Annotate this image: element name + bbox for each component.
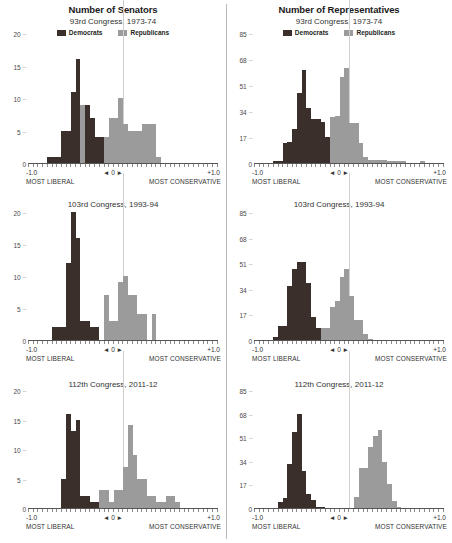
bar-series-container: [28, 390, 218, 508]
y-axis-tick-label: 0: [248, 338, 252, 345]
panel-senate-112th: 112th Congress, 2011-12 05 ···10 ···15 ·…: [0, 375, 226, 543]
histogram-plot: [28, 213, 218, 341]
y-axis-tick-label: 10 ···: [13, 274, 26, 281]
y-axis-tick-label: 20 ···: [13, 210, 26, 217]
y-axis-labels: 017 ···34 ···51 ···68 ···85 ···: [226, 34, 252, 164]
panel-senate-93rd: Number of Senators 93rd Congress, 1973-7…: [0, 0, 226, 195]
y-axis-tick-label: 15 ···: [13, 242, 26, 249]
y-axis-tick-label: 5 ···: [17, 476, 26, 483]
histogram-plot: [254, 213, 444, 341]
y-axis-labels: 017 ···34 ···51 ···68 ···85 ···: [226, 213, 252, 341]
plot-area: 05 ···10 ···15 ···20 ···-1.0+1.0◄ 0 ►MOS…: [0, 34, 226, 194]
x-axis-caption-left: MOST LIBERAL: [252, 355, 300, 362]
x-axis-label-left: -1.0: [26, 346, 37, 353]
bar-series-container: [254, 390, 444, 508]
x-axis-label-right: +1.0: [433, 514, 446, 521]
y-axis-tick-label: 51 ···: [239, 83, 252, 90]
histogram-bar: [95, 327, 100, 340]
histogram-plot: [28, 391, 218, 509]
chart-subtitle: 103rd Congress, 1993-94: [0, 195, 226, 209]
x-axis-caption-left: MOST LIBERAL: [26, 355, 74, 362]
y-axis-tick-label: 34 ···: [239, 458, 252, 465]
x-axis-zero-marker: ◄ 0 ►: [103, 169, 123, 176]
plot-area: 017 ···34 ···51 ···68 ···85 ···-1.0+1.0◄…: [226, 34, 452, 194]
panel-house-93rd: Number of Representatives 93rd Congress,…: [226, 0, 452, 195]
x-axis-zero-marker: ◄ 0 ►: [103, 514, 123, 521]
y-axis-tick-label: 34 ···: [239, 286, 252, 293]
x-axis-tick: [212, 341, 218, 344]
y-axis-tick-label: 85 ···: [239, 388, 252, 395]
histogram-bar: [76, 420, 81, 509]
x-axis-label-right: +1.0: [207, 514, 220, 521]
x-axis-caption-left: MOST LIBERAL: [26, 178, 74, 185]
plot-area: 017 ···34 ···51 ···68 ···85 ···-1.0+1.0◄…: [226, 213, 452, 371]
y-axis-tick-label: 15 ···: [13, 417, 26, 424]
y-axis-tick-label: 17 ···: [239, 312, 252, 319]
x-axis-ticks: [28, 509, 218, 513]
plot-area: 017 ···34 ···51 ···68 ···85 ···-1.0+1.0◄…: [226, 391, 452, 539]
x-axis-label-left: -1.0: [26, 514, 37, 521]
x-axis-label-right: +1.0: [433, 169, 446, 176]
x-axis-caption-right: MOST CONSERVATIVE: [149, 178, 221, 185]
plot-area: 05 ···10 ···15 ···20 ···-1.0+1.0◄ 0 ►MOS…: [0, 391, 226, 539]
y-axis-tick-label: 5 ···: [17, 306, 26, 313]
x-axis-label-left: -1.0: [252, 514, 263, 521]
y-axis-tick-label: 17 ···: [239, 135, 252, 142]
histogram-bar: [152, 314, 157, 340]
y-axis-labels: 05 ···10 ···15 ···20 ···: [0, 34, 26, 164]
y-axis-tick-label: 0: [22, 506, 26, 513]
x-axis-tick: [212, 509, 218, 512]
x-axis-tick: [438, 341, 444, 344]
x-axis-caption-right: MOST CONSERVATIVE: [149, 523, 221, 530]
x-axis-label-left: -1.0: [252, 169, 263, 176]
x-axis-zero-marker: ◄ 0 ►: [103, 346, 123, 353]
histogram-plot: [254, 34, 444, 164]
x-axis-zero-marker: ◄ 0 ►: [329, 514, 349, 521]
x-axis-zero-marker: ◄ 0 ►: [329, 346, 349, 353]
x-axis-ticks: [254, 164, 444, 168]
bar-series-container: [254, 33, 444, 163]
chart-title-senate: Number of Senators: [0, 0, 226, 15]
y-axis-tick-label: 5 ···: [17, 128, 26, 135]
histogram-plot: [28, 34, 218, 164]
x-axis-label-right: +1.0: [207, 346, 220, 353]
y-axis-tick-label: 68 ···: [239, 235, 252, 242]
y-axis-tick-label: 34 ···: [239, 109, 252, 116]
y-axis-tick-label: 20 ···: [13, 31, 26, 38]
y-axis-tick-label: 20 ···: [13, 388, 26, 395]
y-axis-tick-label: 68 ···: [239, 411, 252, 418]
x-axis-ticks: [28, 164, 218, 168]
bar-series-container: [28, 212, 218, 340]
x-axis-tick: [438, 164, 444, 167]
x-axis-caption-right: MOST CONSERVATIVE: [375, 178, 447, 185]
bar-series-container: [28, 33, 218, 163]
histogram-plot: [254, 391, 444, 509]
x-axis-caption-right: MOST CONSERVATIVE: [375, 523, 447, 530]
x-axis-caption-right: MOST CONSERVATIVE: [375, 355, 447, 362]
x-axis-label-left: -1.0: [252, 346, 263, 353]
y-axis-tick-label: 85 ···: [239, 210, 252, 217]
chart-subtitle: 112th Congress, 2011-12: [226, 375, 452, 389]
y-axis-tick-label: 0: [22, 161, 26, 168]
y-axis-tick-label: 68 ···: [239, 57, 252, 64]
x-axis-ticks: [28, 341, 218, 345]
x-axis-tick: [212, 164, 218, 167]
panel-house-112th: 112th Congress, 2011-12 017 ···34 ···51 …: [226, 375, 452, 543]
x-axis-ticks: [254, 509, 444, 513]
x-axis-tick: [438, 509, 444, 512]
y-axis-tick-label: 0: [22, 338, 26, 345]
y-axis-tick-label: 10 ···: [13, 96, 26, 103]
x-axis-zero-marker: ◄ 0 ►: [329, 169, 349, 176]
y-axis-tick-label: 85 ···: [239, 31, 252, 38]
y-axis-tick-label: 17 ···: [239, 482, 252, 489]
chart-subtitle: 93rd Congress, 1973-74: [226, 15, 452, 26]
x-axis-caption-left: MOST LIBERAL: [252, 523, 300, 530]
chart-subtitle: 103rd Congress, 1993-94: [226, 195, 452, 209]
y-axis-tick-label: 51 ···: [239, 435, 252, 442]
x-axis-label-right: +1.0: [433, 346, 446, 353]
panel-house-103rd: 103rd Congress, 1993-94 017 ···34 ···51 …: [226, 195, 452, 375]
x-axis-label-left: -1.0: [26, 169, 37, 176]
x-axis-label-right: +1.0: [207, 169, 220, 176]
y-axis-tick-label: 15 ···: [13, 63, 26, 70]
panel-senate-103rd: 103rd Congress, 1993-94 05 ···10 ···15 ·…: [0, 195, 226, 375]
